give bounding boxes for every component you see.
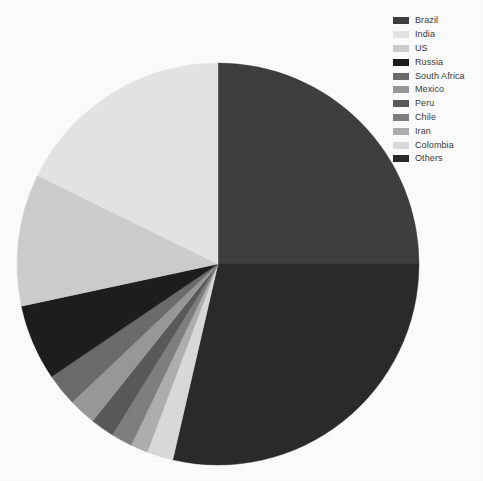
legend-swatch-icon <box>393 59 409 66</box>
legend-item-label: Chile <box>415 113 436 122</box>
legend-item-india[interactable]: India <box>393 28 483 42</box>
pie-chart-figure: BrazilIndiaUSRussiaSouth AfricaMexicoPer… <box>0 0 483 481</box>
legend-swatch-icon <box>393 128 409 135</box>
legend-item-label: Colombia <box>415 141 454 150</box>
pie-slice-brazil[interactable] <box>218 63 419 264</box>
legend-item-label: Others <box>415 154 443 163</box>
legend-item-label: Peru <box>415 99 434 108</box>
legend-swatch-icon <box>393 86 409 93</box>
legend-item-russia[interactable]: Russia <box>393 55 483 69</box>
pie-slice-group <box>17 63 419 465</box>
legend-item-label: Mexico <box>415 85 444 94</box>
legend-item-colombia[interactable]: Colombia <box>393 138 483 152</box>
legend-item-south-africa[interactable]: South Africa <box>393 69 483 83</box>
legend-item-us[interactable]: US <box>393 42 483 56</box>
legend-item-iran[interactable]: Iran <box>393 124 483 138</box>
legend-swatch-icon <box>393 155 409 162</box>
legend-swatch-icon <box>393 17 409 24</box>
legend-item-brazil[interactable]: Brazil <box>393 14 483 28</box>
legend-swatch-icon <box>393 100 409 107</box>
legend-item-others[interactable]: Others <box>393 152 483 166</box>
legend-item-label: South Africa <box>415 72 465 81</box>
legend-swatch-icon <box>393 73 409 80</box>
chart-legend: BrazilIndiaUSRussiaSouth AfricaMexicoPer… <box>393 14 483 166</box>
legend-item-label: Brazil <box>415 16 438 25</box>
legend-item-peru[interactable]: Peru <box>393 97 483 111</box>
legend-swatch-icon <box>393 45 409 52</box>
legend-item-label: Iran <box>415 127 431 136</box>
legend-item-label: US <box>415 44 428 53</box>
legend-swatch-icon <box>393 142 409 149</box>
legend-item-chile[interactable]: Chile <box>393 111 483 125</box>
legend-swatch-icon <box>393 114 409 121</box>
legend-item-label: Russia <box>415 58 443 67</box>
legend-item-mexico[interactable]: Mexico <box>393 83 483 97</box>
legend-item-label: India <box>415 30 435 39</box>
legend-swatch-icon <box>393 31 409 38</box>
